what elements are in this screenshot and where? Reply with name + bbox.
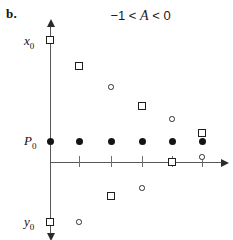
square-orbit-marker-2 (107, 192, 115, 200)
equilibrium-dots-marker-4 (169, 138, 176, 145)
circle-orbit-marker-1 (108, 84, 114, 90)
axis-label-P0: P0 (24, 133, 36, 151)
horizontal-axis-line (50, 162, 222, 163)
square-orbit-marker-3 (138, 102, 146, 110)
equilibrium-dots-marker-5 (199, 138, 206, 145)
equilibrium-dots-marker-0 (47, 138, 54, 145)
square-orbit-marker-0 (46, 36, 54, 44)
vertical-axis-up-arrowhead (47, 19, 55, 27)
x-axis-tick-2 (142, 156, 143, 167)
equilibrium-dots-marker-1 (76, 138, 83, 145)
circle-orbit-marker-0 (76, 219, 82, 225)
equilibrium-dots-marker-2 (108, 138, 115, 145)
vertical-axis-down-arrowhead (47, 233, 55, 240)
equilibrium-dots-marker-3 (139, 138, 146, 145)
vertical-axis-line (50, 26, 51, 234)
circle-orbit-marker-3 (169, 116, 175, 122)
x-axis-tick-0 (79, 156, 80, 167)
axis-label-x0-subscript: 0 (30, 41, 35, 51)
axis-label-y0: y0 (24, 214, 34, 232)
square-orbit-marker-1 (75, 62, 83, 70)
figure-panel-b: b. −1 < A < 0 x0P0y0 (0, 0, 233, 240)
x-axis-tick-1 (111, 156, 112, 167)
horizontal-axis-arrowhead (221, 159, 229, 167)
circle-orbit-marker-2 (139, 185, 145, 191)
circle-orbit-marker-4 (199, 154, 205, 160)
title-variable: A (140, 8, 149, 23)
title-prefix: −1 < (110, 8, 140, 23)
square-orbit-marker-6 (46, 218, 54, 226)
title-suffix: < 0 (149, 8, 171, 23)
axis-label-P0-symbol: P (24, 133, 32, 148)
axis-label-P0-subscript: 0 (32, 141, 37, 151)
chart-title: −1 < A < 0 (0, 8, 233, 24)
square-orbit-marker-4 (168, 158, 176, 166)
square-orbit-marker-5 (198, 129, 206, 137)
axis-label-y0-subscript: 0 (30, 222, 35, 232)
axis-label-x0: x0 (24, 33, 34, 51)
